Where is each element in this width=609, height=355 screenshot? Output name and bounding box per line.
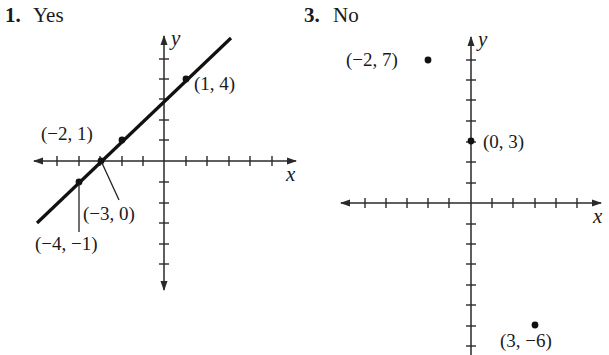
y-axis-label: y	[476, 27, 488, 51]
point-3-neg6	[532, 322, 539, 329]
problem-3-answer: No	[333, 3, 359, 27]
problem-1-answer: Yes	[33, 3, 64, 27]
label-neg3-0: (−3, 0)	[83, 203, 135, 225]
label-neg2-7: (−2, 7)	[346, 49, 398, 71]
label-neg4-neg1: (−4, −1)	[35, 233, 98, 255]
label-0-3: (0, 3)	[483, 131, 524, 153]
graph-1: y x (1, 4) (−2, 1) (−3, 0) (−4, −1)	[34, 26, 296, 290]
point-neg2-1	[119, 137, 126, 144]
y-axis-label: y	[169, 26, 181, 50]
leader-neg3-0	[102, 163, 119, 200]
problem-1: 1. Yes	[5, 3, 296, 290]
point-1-4	[183, 76, 190, 83]
label-1-4: (1, 4)	[194, 73, 235, 95]
label-3-neg6: (3, −6)	[500, 330, 552, 352]
point-neg3-0	[98, 158, 105, 165]
problem-1-number: 1.	[5, 3, 21, 27]
label-neg2-1: (−2, 1)	[41, 123, 93, 145]
problem-3-number: 3.	[304, 3, 320, 27]
point-0-3	[468, 138, 475, 145]
x-axis-label: x	[285, 162, 296, 186]
x-axis-label: x	[592, 204, 603, 228]
graph-3: y x (−2, 7) (0, 3) (3, −6)	[341, 27, 603, 355]
problem-3: 3. No	[304, 3, 603, 355]
point-neg2-7	[425, 57, 432, 64]
